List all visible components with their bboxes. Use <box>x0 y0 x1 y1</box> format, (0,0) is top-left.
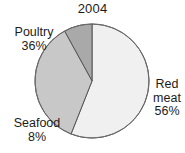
pie-chart-figure: 2004 Poultry 36% Seafood 8% Red meat 56% <box>0 0 185 153</box>
pie-label-seafood: Seafood 8% <box>1 117 73 144</box>
pie-label-poultry: Poultry 36% <box>3 26 65 53</box>
pie-label-poultry-name: Poultry <box>3 26 65 40</box>
pie-label-red-meat: Red meat 56% <box>149 78 185 119</box>
pie-label-red-meat-name-line2: meat <box>149 92 185 106</box>
pie-label-red-meat-name-line1: Red <box>149 78 185 92</box>
pie-label-red-meat-percent: 56% <box>149 105 185 119</box>
pie-label-poultry-percent: 36% <box>3 40 65 54</box>
pie-label-seafood-percent: 8% <box>1 131 73 145</box>
pie-label-seafood-name: Seafood <box>1 117 73 131</box>
